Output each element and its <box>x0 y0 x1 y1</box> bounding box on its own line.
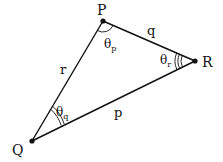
angle-arc-r-1 <box>181 55 182 67</box>
angle-q-label: θq <box>56 105 68 121</box>
angle-arc-r-3 <box>175 53 177 70</box>
angle-arc-r-2 <box>178 54 180 68</box>
triangle-diagram: P Q R q r p θp θq θr <box>0 0 223 162</box>
side-p-label: p <box>114 105 122 120</box>
side-r-label: r <box>60 62 67 77</box>
vertex-R-dot <box>192 58 197 63</box>
vertex-R-label: R <box>202 54 213 70</box>
angle-r-label: θr <box>160 53 171 69</box>
angle-p-label: θp <box>104 37 116 53</box>
vertex-Q-label: Q <box>12 142 23 158</box>
vertex-P-dot <box>100 18 105 23</box>
vertex-P-label: P <box>97 2 106 18</box>
vertex-Q-dot <box>29 138 34 143</box>
side-q-label: q <box>147 23 155 38</box>
